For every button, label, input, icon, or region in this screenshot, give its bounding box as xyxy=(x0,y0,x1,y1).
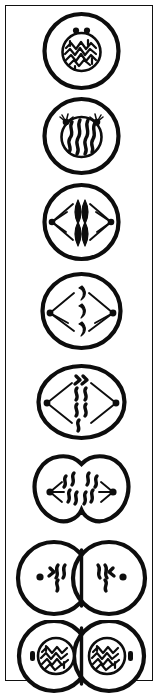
stage-2-early-prophase xyxy=(0,95,163,177)
stage-7-cytokinesis xyxy=(0,538,163,620)
daughter-cell-right-membrane xyxy=(73,542,145,614)
stage-4-metaphase xyxy=(0,267,163,355)
centriole-right xyxy=(119,573,126,580)
centriole-right xyxy=(128,651,133,661)
centriole-left xyxy=(30,651,35,661)
stage-5-anaphase xyxy=(0,358,163,446)
centriole-left xyxy=(36,573,43,580)
stage-6-telophase xyxy=(0,448,163,536)
mitosis-figure: Mitosis — stages of cell division xyxy=(0,0,163,696)
stage-3-late-prophase xyxy=(0,180,163,264)
cell-membrane xyxy=(43,274,121,348)
stage-8-daughter-cells xyxy=(0,620,163,696)
stage-1-interphase xyxy=(0,10,163,92)
cell-membrane xyxy=(45,185,119,259)
